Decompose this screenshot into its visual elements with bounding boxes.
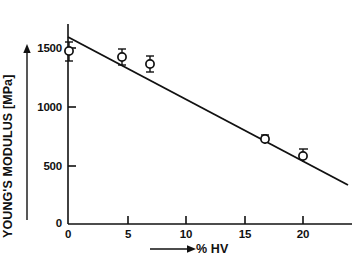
x-tick-label-0: 0 (58, 229, 78, 241)
data-point (299, 149, 308, 162)
marker-open-circle (118, 53, 126, 61)
y-tick-label-1000: 1000 (28, 102, 62, 114)
x-axis-label-arrow-icon (150, 245, 196, 252)
marker-open-circle (261, 135, 269, 143)
chart-figure: 1500 1000 500 0 0 5 10 15 20 YOUNG'S MOD… (0, 0, 359, 268)
axis-lines (68, 24, 352, 224)
data-point (261, 135, 269, 144)
y-tick-label-1500: 1500 (28, 43, 62, 55)
regression-line (68, 37, 348, 185)
x-tick-label-15: 15 (235, 229, 255, 241)
x-tick-label-20: 20 (293, 229, 313, 241)
y-axis-ticks (68, 48, 76, 166)
data-point (146, 56, 154, 72)
marker-open-circle (299, 152, 307, 160)
y-tick-label-0: 0 (28, 218, 62, 230)
x-tick-label-10: 10 (176, 229, 196, 241)
marker-open-circle (146, 60, 154, 68)
data-point (118, 49, 126, 65)
x-axis-title: % HV (196, 243, 228, 256)
x-tick-label-5: 5 (118, 229, 138, 241)
y-tick-label-500: 500 (28, 161, 62, 173)
y-axis-title-wrap: YOUNG'S MODULUS [MPa] (2, 0, 24, 250)
data-point (65, 42, 73, 61)
y-axis-label-arrow-icon (23, 44, 30, 220)
marker-open-circle (65, 47, 73, 55)
y-axis-title: YOUNG'S MODULUS [MPa] (2, 75, 15, 238)
x-axis-ticks (128, 216, 303, 224)
